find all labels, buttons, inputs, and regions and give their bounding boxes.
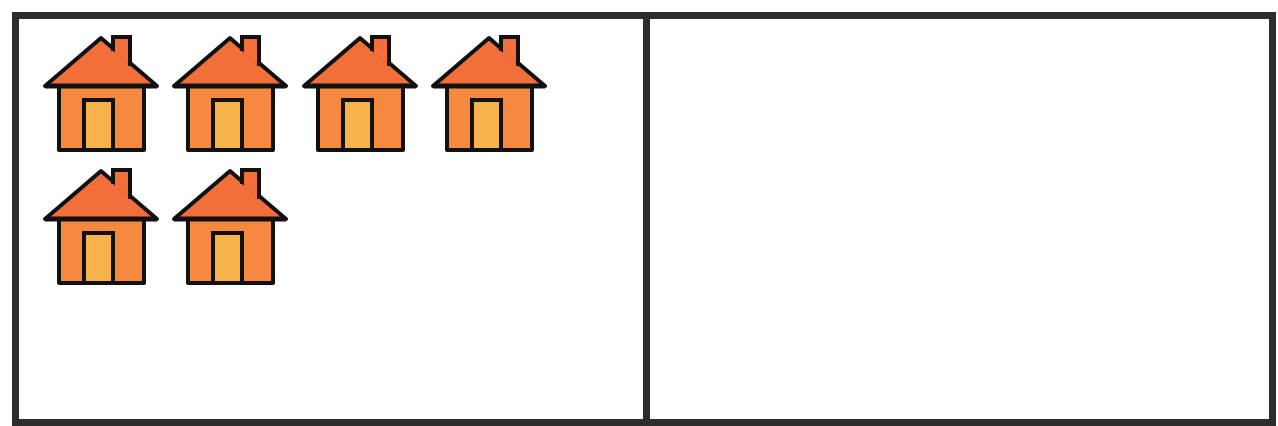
house-icon bbox=[43, 34, 161, 154]
left-panel bbox=[19, 19, 643, 419]
right-panel-empty bbox=[650, 19, 1269, 419]
panel-divider bbox=[643, 12, 650, 426]
house-icon bbox=[172, 34, 290, 154]
house-icon bbox=[43, 167, 161, 287]
house-icon bbox=[172, 167, 290, 287]
house-icon bbox=[431, 34, 549, 154]
house-icon bbox=[302, 34, 420, 154]
